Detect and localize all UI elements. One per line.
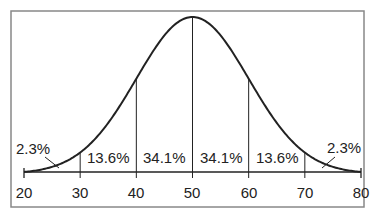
x-tick-label: 80	[353, 184, 370, 201]
x-tick-label: 30	[72, 184, 89, 201]
region-label-50-60: 34.1%	[200, 149, 243, 166]
region-label-left-tail: 2.3%	[16, 140, 50, 157]
x-tick-label: 70	[297, 184, 314, 201]
region-label-right-tail: 2.3%	[327, 139, 361, 156]
x-tick-label: 50	[184, 184, 201, 201]
region-label-30-40: 13.6%	[87, 149, 130, 166]
chart-frame	[11, 11, 364, 207]
region-label-60-70: 13.6%	[256, 149, 299, 166]
x-tick-label: 20	[16, 184, 33, 201]
x-tick-label: 60	[241, 184, 258, 201]
region-label-40-50: 34.1%	[143, 149, 186, 166]
x-tick-label: 40	[128, 184, 145, 201]
bell-curve-chart: 2.3% 13.6% 34.1% 34.1% 13.6% 2.3% 20 30 …	[0, 0, 381, 216]
